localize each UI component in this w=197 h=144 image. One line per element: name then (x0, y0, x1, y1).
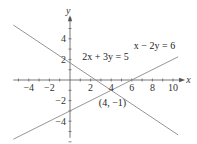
x-axis-arrow (179, 78, 185, 82)
labels: xy−4−224681042−2−42x + 3y = 5x − 2y = 6(… (23, 5, 191, 127)
y-tick-label: 2 (61, 54, 66, 65)
x-tick-label: 4 (109, 82, 114, 93)
series-label-1: 2x + 3y = 5 (82, 51, 128, 62)
y-tick-label: −4 (55, 116, 66, 127)
y-axis-title: y (65, 5, 71, 16)
x-tick-label: −4 (23, 82, 34, 93)
x-axis-title: x (185, 74, 191, 85)
x-tick-label: 2 (88, 82, 93, 93)
y-tick-label: 4 (61, 33, 66, 44)
chart: xy−4−224681042−2−42x + 3y = 5x − 2y = 6(… (0, 0, 197, 144)
x-tick-label: 10 (168, 82, 178, 93)
axes (13, 15, 185, 138)
intersection-label: (4, −1) (99, 97, 126, 109)
x-tick-label: 8 (150, 82, 155, 93)
series-line-2 (13, 57, 178, 139)
x-tick-label: 6 (129, 82, 134, 93)
y-tick-label: −2 (55, 95, 66, 106)
x-tick-label: −2 (44, 82, 55, 93)
series-label-2: x − 2y = 6 (134, 40, 175, 51)
